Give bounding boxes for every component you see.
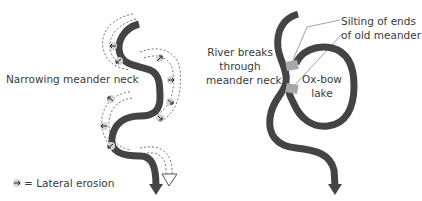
river-breaks-line2: through <box>206 59 274 73</box>
river-breaks-label: River breaks through meander neck <box>206 45 274 87</box>
river-channel-right <box>270 14 335 186</box>
silt-plug-upper <box>285 60 298 71</box>
silting-line1: Silting of ends <box>341 14 421 28</box>
oxbow-lake-label: Ox-bow lake <box>300 72 344 100</box>
narrowing-meander-neck-label: Narrowing meander neck <box>6 72 139 86</box>
lateral-erosion-arrow-icon <box>13 179 21 187</box>
river-breaks-line1: River breaks <box>206 45 274 59</box>
silting-label: Silting of ends of old meander <box>341 14 421 42</box>
flow-arrowhead-left <box>149 184 163 195</box>
silting-line2: of old meander <box>341 28 421 42</box>
oxbow-line1: Ox-bow <box>300 72 344 86</box>
river-breaks-line3: meander neck <box>206 73 274 87</box>
lateral-erosion-legend-label: = Lateral erosion <box>24 176 114 190</box>
river-channel-left <box>112 24 160 186</box>
oxbow-line2: lake <box>300 86 344 100</box>
migration-direction-arrowhead <box>162 174 177 186</box>
flow-arrowhead-right <box>328 184 342 195</box>
